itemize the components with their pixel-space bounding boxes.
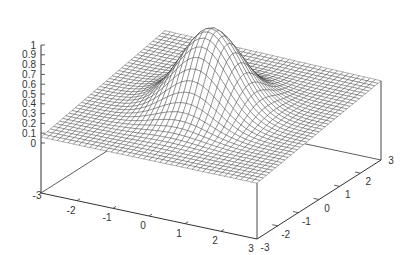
y-tick-label: 0 xyxy=(324,203,330,214)
z-tick-label: 0 xyxy=(30,138,36,149)
y-tick-label: 1 xyxy=(345,189,351,200)
y-tick-label: -3 xyxy=(261,242,270,253)
surface-plot: 10.90.80.70.60.50.40.30.20.10 -3-2-10123… xyxy=(0,0,412,255)
x-axis: -3-2-10123 xyxy=(33,190,255,254)
x-tick-label: -1 xyxy=(103,212,112,223)
y-tick-label: 3 xyxy=(388,155,394,166)
x-tick-label: 3 xyxy=(248,243,254,254)
x-tick-label: 2 xyxy=(212,235,218,246)
x-tick-label: -2 xyxy=(67,205,76,216)
y-tick-label: -1 xyxy=(302,216,311,227)
y-axis: -3-2-10123 xyxy=(261,155,395,253)
surface-mesh xyxy=(41,28,381,183)
z-axis: 10.90.80.70.60.50.40.30.20.10 xyxy=(22,40,45,194)
x-tick-label: 0 xyxy=(140,220,146,231)
y-tick-label: -2 xyxy=(281,229,290,240)
y-tick-label: 2 xyxy=(366,176,372,187)
x-tick-label: -3 xyxy=(33,190,42,201)
x-tick-label: 1 xyxy=(176,228,182,239)
